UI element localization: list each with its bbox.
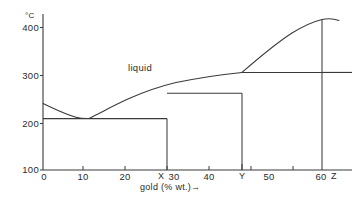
liquid-region-label: liquid [128,62,152,73]
y-tick-label-300: 300 [13,70,39,81]
phase-diagram-figure: °C 400 300 200 100 0 10 20 30 40 50 60 X… [0,0,355,199]
x-tick-label-20: 20 [117,171,133,182]
y-tick-label-100: 100 [13,164,39,175]
y-tick-label-400: 400 [13,22,39,33]
x-axis-title: gold (% wt.)→ [140,182,200,192]
x-tick-label-10: 10 [75,171,91,182]
liquidus-right-curve [242,19,339,73]
phase-diagram-plot [0,0,355,199]
x-tick-label-30: 30 [166,171,182,182]
x-tick-label-40: 40 [201,171,217,182]
x-tick-label-50: 50 [261,171,277,182]
composition-label-Z: Z [331,171,337,181]
liquidus-left-curve [43,72,242,118]
x-axis-ticks [83,164,293,170]
x-tick-label-0: 0 [38,171,50,182]
x-tick-label-60: 60 [313,171,329,182]
y-axis-unit-label: °C [25,11,35,20]
composition-label-Y: Y [239,171,245,181]
axis-lines [43,14,352,170]
y-tick-label-200: 200 [13,118,39,129]
composition-label-X: X [158,171,164,181]
